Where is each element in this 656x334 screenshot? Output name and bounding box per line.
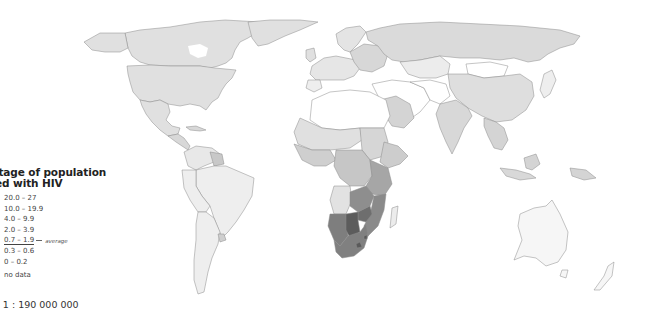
legend-class-10-19-9: 10.0 – 19.9 xyxy=(4,204,106,215)
legend-class-0-3-0-6: 0.3 – 0.6 xyxy=(4,246,106,257)
country-alaska xyxy=(84,33,128,52)
country-swaziland xyxy=(364,235,367,239)
country-canada xyxy=(125,20,270,68)
country-cuba xyxy=(186,126,206,131)
country-central-america xyxy=(168,134,190,150)
country-western-europe xyxy=(310,56,360,80)
country-central-africa xyxy=(334,150,372,186)
legend-no-data: no data xyxy=(4,270,106,281)
legend-title: entage of population cted with HIV xyxy=(0,167,106,189)
country-uk xyxy=(306,48,316,62)
legend-class-0-0-2: 0 – 0.2 xyxy=(4,257,106,268)
country-guyanas xyxy=(210,152,224,166)
country-indonesia xyxy=(500,168,536,180)
country-argentina-chile xyxy=(194,212,220,294)
legend-items: 20.0 – 27 10.0 – 19.9 4.0 – 9.9 2.0 – 3.… xyxy=(4,193,106,281)
country-india xyxy=(436,100,472,154)
country-borneo xyxy=(524,154,540,170)
region-oceania xyxy=(514,200,614,290)
country-mexico xyxy=(140,100,180,136)
country-southeast-asia xyxy=(484,118,508,150)
country-ethiopia-horn xyxy=(380,142,408,168)
country-papua-new-guinea xyxy=(570,168,596,180)
legend-class-4-9-9: 4.0 – 9.9 xyxy=(4,214,106,225)
country-north-africa xyxy=(310,90,390,130)
country-madagascar xyxy=(390,206,398,228)
country-tasmania xyxy=(560,270,568,278)
legend-class-0-7-1-9: 0.7 – 1.9average xyxy=(4,235,106,246)
legend-class-2-3-9: 2.0 – 3.9 xyxy=(4,225,106,236)
country-new-zealand xyxy=(594,262,614,290)
region-south-america xyxy=(182,146,254,294)
legend-class-20-27: 20.0 – 27 xyxy=(4,193,106,204)
country-russia xyxy=(366,22,580,62)
country-japan xyxy=(540,70,556,98)
legend-title-line-2: cted with HIV xyxy=(0,178,106,189)
map-scale: e 1 : 190 000 000 xyxy=(0,299,79,310)
country-greenland xyxy=(248,20,318,46)
country-angola xyxy=(330,186,352,214)
region-north-america xyxy=(84,20,318,150)
country-iberia xyxy=(306,80,322,92)
average-label: average xyxy=(45,238,68,244)
average-marker-line xyxy=(36,240,42,241)
country-australia xyxy=(514,200,568,266)
map-legend: entage of population cted with HIV 20.0 … xyxy=(0,167,106,281)
